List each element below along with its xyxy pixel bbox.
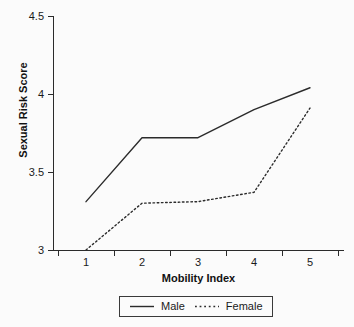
legend-entry-male: Male bbox=[129, 301, 185, 312]
series-layer bbox=[0, 0, 354, 327]
legend-label-female: Female bbox=[226, 301, 263, 312]
legend-label-male: Male bbox=[161, 301, 185, 312]
legend-swatch-solid-icon bbox=[129, 302, 155, 311]
chart-figure: 4.5 4 3.5 3 1 2 3 4 5 Sexual Risk Score … bbox=[0, 0, 354, 327]
legend-entry-female: Female bbox=[194, 301, 263, 312]
legend: Male Female bbox=[119, 296, 273, 317]
series-line-male bbox=[86, 88, 310, 202]
series-line-female bbox=[86, 108, 310, 250]
legend-swatch-dotted-icon bbox=[194, 302, 220, 311]
